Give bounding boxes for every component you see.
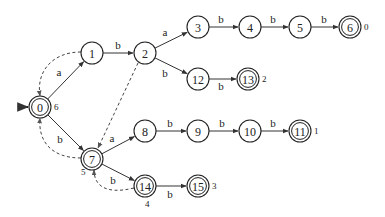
state-label: 11 — [294, 125, 306, 139]
state-0: 06 — [29, 96, 59, 118]
state-5: 5 — [289, 16, 311, 38]
state-12: 12 — [187, 68, 209, 90]
state-label: 10 — [244, 125, 256, 139]
state-4: 4 — [239, 16, 261, 38]
output-label: 6 — [54, 102, 59, 112]
edge-label: a — [163, 26, 168, 38]
state-label: 3 — [195, 21, 201, 35]
failure-edge-2-to-7 — [98, 63, 138, 148]
state-label: 6 — [347, 21, 353, 35]
edge-label: b — [167, 188, 173, 200]
transition-2-to-3 — [155, 32, 187, 48]
state-1: 1 — [81, 42, 103, 64]
state-label: 0 — [37, 101, 43, 115]
state-10: 10 — [239, 120, 261, 142]
edge-label: b — [162, 67, 168, 79]
output-label: 2 — [262, 74, 267, 84]
state-15: 153 — [187, 175, 217, 197]
edge-label: b — [110, 174, 116, 186]
state-6: 60 — [339, 16, 369, 38]
state-label: 15 — [192, 180, 204, 194]
state-label: 7 — [89, 153, 95, 167]
edge-label: b — [218, 13, 224, 25]
edge-label: b — [321, 13, 327, 25]
transition-2-to-12 — [155, 58, 187, 74]
output-label: 4 — [145, 199, 150, 209]
edge-label: b — [115, 39, 121, 51]
state-label: 13 — [242, 73, 254, 87]
state-label: 2 — [142, 47, 148, 61]
state-11: 111 — [289, 120, 319, 142]
edge-label: b — [57, 133, 63, 145]
state-label: 12 — [192, 73, 204, 87]
state-7: 75 — [81, 148, 103, 177]
state-13: 132 — [237, 68, 267, 90]
state-label: 8 — [142, 125, 148, 139]
state-label: 4 — [247, 21, 253, 35]
state-9: 9 — [187, 120, 209, 142]
output-label: 5 — [81, 167, 86, 177]
edge-label: b — [218, 80, 224, 92]
state-label: 5 — [297, 21, 303, 35]
transition-7-to-14 — [102, 164, 135, 181]
automaton-diagram: 06123456012132758910111144153 ababbbbbba… — [0, 0, 385, 217]
state-3: 3 — [187, 16, 209, 38]
output-label: 0 — [364, 22, 369, 32]
edge-label: b — [219, 117, 225, 129]
state-14: 144 — [134, 175, 156, 209]
edge-label: a — [57, 66, 62, 78]
state-label: 9 — [195, 125, 201, 139]
transition-0-to-1 — [48, 62, 84, 99]
edge-label: b — [167, 117, 173, 129]
states: 06123456012132758910111144153 — [29, 16, 369, 209]
output-label: 3 — [212, 181, 217, 191]
state-label: 1 — [89, 47, 95, 61]
output-label: 1 — [314, 126, 319, 136]
edge-label: b — [270, 117, 276, 129]
transition-7-to-8 — [102, 137, 135, 154]
state-label: 14 — [139, 180, 151, 194]
state-8: 8 — [134, 120, 156, 142]
edge-label: a — [110, 132, 115, 144]
edge-labels: ababbbbbbabbbbb — [57, 13, 328, 200]
state-2: 2 — [134, 42, 156, 64]
edge-label: b — [270, 13, 276, 25]
transition-0-to-7 — [48, 115, 84, 151]
